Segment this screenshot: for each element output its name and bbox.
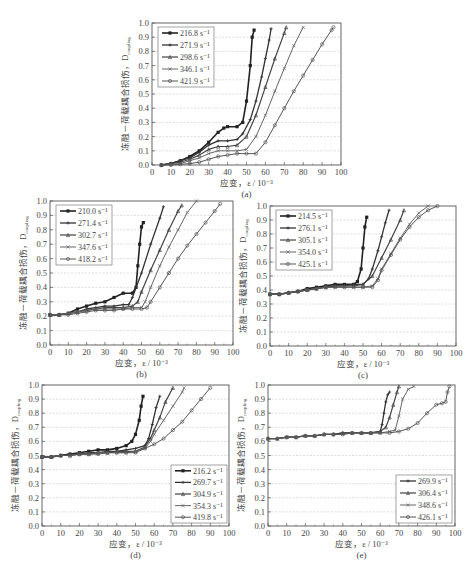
y-tick-label: 0.2 bbox=[36, 311, 47, 321]
legend-label: 305.1 s⁻¹ bbox=[298, 236, 328, 245]
legend-label: 347.6 s⁻¹ bbox=[78, 243, 108, 252]
legend-label: 426.1 s⁻¹ bbox=[418, 513, 448, 522]
legend-label: 216.2 s⁻¹ bbox=[193, 467, 223, 476]
x-tick-label: 100 bbox=[335, 167, 348, 177]
legend-label: 269.7 s⁻¹ bbox=[193, 478, 223, 487]
legend: 214.5 s⁻¹276.1 s⁻¹305.1 s⁻¹354.0 s⁻¹425.… bbox=[276, 210, 332, 270]
figure-canvas: 01020304050607080901000.00.10.20.30.40.5… bbox=[0, 0, 475, 572]
x-tick-label: 60 bbox=[377, 348, 386, 358]
y-tick-label: 0.5 bbox=[254, 451, 265, 461]
x-tick-label: 0 bbox=[268, 348, 272, 358]
x-tick-label: 10 bbox=[64, 347, 73, 357]
x-tick-label: 90 bbox=[206, 528, 215, 538]
x-tick-label: 30 bbox=[322, 348, 331, 358]
x-tick-label: 80 bbox=[192, 347, 201, 357]
x-tick-label: 90 bbox=[433, 348, 442, 358]
y-tick-label: 0.1 bbox=[28, 507, 39, 517]
x-tick-label: 10 bbox=[284, 348, 293, 358]
y-tick-label: 0.0 bbox=[254, 521, 265, 531]
x-tick-label: 40 bbox=[119, 347, 128, 357]
x-tick-label: 30 bbox=[94, 528, 103, 538]
y-tick-label: 0.6 bbox=[254, 436, 265, 446]
x-tick-label: 100 bbox=[227, 347, 240, 357]
y-tick-label: 0.2 bbox=[256, 313, 267, 323]
x-tick-label: 0 bbox=[40, 528, 44, 538]
x-tick-label: 80 bbox=[415, 348, 424, 358]
x-tick-label: 40 bbox=[113, 528, 122, 538]
chart-panel-c: 01020304050607080901000.00.10.20.30.40.5… bbox=[238, 201, 462, 380]
y-tick-label: 0.8 bbox=[138, 46, 149, 56]
y-tick-label: 0.4 bbox=[138, 103, 149, 113]
y-axis-label: 冻融－荷载耦合损伤，Dcoupling bbox=[120, 37, 131, 151]
x-tick-label: 90 bbox=[318, 167, 327, 177]
x-tick-label: 50 bbox=[357, 528, 366, 538]
x-axis-label: 应变，ε / 10⁻³ bbox=[335, 539, 388, 549]
y-tick-label: 0.5 bbox=[256, 271, 267, 281]
legend-label: 306.4 s⁻¹ bbox=[418, 489, 448, 498]
y-tick-label: 1.0 bbox=[28, 380, 39, 390]
x-tick-label: 20 bbox=[186, 167, 195, 177]
y-tick-label: 0.9 bbox=[28, 394, 39, 404]
series-line bbox=[40, 386, 185, 458]
x-tick-label: 60 bbox=[376, 528, 385, 538]
series-line bbox=[40, 386, 212, 458]
x-tick-label: 100 bbox=[223, 528, 236, 538]
y-tick-label: 0.9 bbox=[256, 215, 267, 225]
legend-label: 425.1 s⁻¹ bbox=[298, 260, 328, 269]
panel-caption: (c) bbox=[358, 370, 368, 380]
series-line bbox=[266, 385, 400, 440]
x-tick-label: 90 bbox=[210, 347, 219, 357]
y-tick-label: 0.6 bbox=[36, 254, 47, 264]
y-axis-label: 冻融－荷载耦合损伤，Dcoupling bbox=[238, 219, 249, 333]
legend-label: 214.5 s⁻¹ bbox=[298, 212, 328, 221]
x-tick-label: 20 bbox=[75, 528, 84, 538]
x-tick-label: 70 bbox=[395, 528, 404, 538]
legend-label: 271.9 s⁻¹ bbox=[180, 41, 210, 50]
y-tick-label: 0.5 bbox=[36, 268, 47, 278]
x-tick-label: 30 bbox=[204, 167, 213, 177]
y-tick-label: 0.8 bbox=[254, 408, 265, 418]
x-tick-label: 40 bbox=[223, 167, 232, 177]
x-tick-label: 50 bbox=[242, 167, 251, 177]
x-tick-label: 40 bbox=[340, 348, 349, 358]
y-tick-label: 0.8 bbox=[36, 225, 47, 235]
panel-caption: (e) bbox=[357, 550, 367, 560]
chart-panel-e: 01020304050607080901000.00.10.20.30.40.5… bbox=[236, 380, 461, 560]
y-tick-label: 0.9 bbox=[36, 210, 47, 220]
x-tick-label: 50 bbox=[137, 347, 146, 357]
x-tick-label: 30 bbox=[320, 528, 329, 538]
y-tick-label: 0.7 bbox=[256, 243, 267, 253]
y-tick-label: 0.2 bbox=[138, 132, 149, 142]
chart-panel-b: 01020304050607080901000.00.10.20.30.40.5… bbox=[18, 196, 239, 379]
y-axis-label: 冻融－荷载耦合损伤，Dcoupling bbox=[10, 398, 21, 512]
x-tick-label: 70 bbox=[280, 167, 289, 177]
y-tick-label: 0.3 bbox=[256, 299, 267, 309]
x-tick-label: 10 bbox=[167, 167, 176, 177]
y-tick-label: 0.6 bbox=[256, 257, 267, 267]
x-tick-label: 70 bbox=[169, 528, 178, 538]
legend: 216.8 s⁻¹271.9 s⁻¹298.6 s⁻¹346.1 s⁻¹421.… bbox=[158, 27, 214, 87]
y-tick-label: 0.3 bbox=[36, 297, 47, 307]
y-tick-label: 0.2 bbox=[28, 493, 39, 503]
series-line bbox=[266, 385, 451, 440]
x-tick-label: 80 bbox=[187, 528, 196, 538]
y-tick-label: 0.0 bbox=[256, 341, 267, 351]
legend-label: 304.9 s⁻¹ bbox=[193, 490, 223, 499]
y-tick-label: 0.7 bbox=[36, 239, 47, 249]
y-tick-label: 0.6 bbox=[28, 436, 39, 446]
y-tick-label: 0.3 bbox=[254, 479, 265, 489]
y-tick-label: 0.7 bbox=[28, 422, 39, 432]
x-tick-label: 60 bbox=[156, 347, 165, 357]
x-axis-label: 应变，ε / 10⁻³ bbox=[115, 358, 168, 368]
legend-label: 354.0 s⁻¹ bbox=[298, 248, 328, 257]
y-tick-label: 0.1 bbox=[36, 326, 47, 336]
y-tick-label: 1.0 bbox=[256, 201, 267, 211]
y-tick-label: 0.4 bbox=[28, 465, 39, 475]
x-tick-label: 70 bbox=[174, 347, 183, 357]
y-tick-label: 0.0 bbox=[28, 521, 39, 531]
legend-label: 216.8 s⁻¹ bbox=[180, 29, 210, 38]
y-tick-label: 0.8 bbox=[256, 229, 267, 239]
y-tick-label: 0.5 bbox=[138, 89, 149, 99]
x-tick-label: 20 bbox=[301, 528, 310, 538]
x-tick-label: 50 bbox=[359, 348, 368, 358]
